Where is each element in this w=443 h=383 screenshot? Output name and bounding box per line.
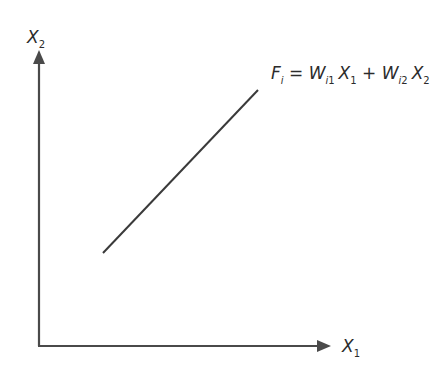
function-line bbox=[103, 90, 258, 253]
y-axis-label: X2 bbox=[27, 29, 45, 50]
equation-label: Fi = Wi1X1 + Wi2X2 bbox=[271, 65, 430, 86]
x-axis-arrow-icon bbox=[317, 340, 331, 352]
y-axis-arrow-icon bbox=[33, 50, 45, 64]
x-axis-label: X1 bbox=[342, 338, 360, 359]
diagram-canvas bbox=[0, 0, 443, 383]
